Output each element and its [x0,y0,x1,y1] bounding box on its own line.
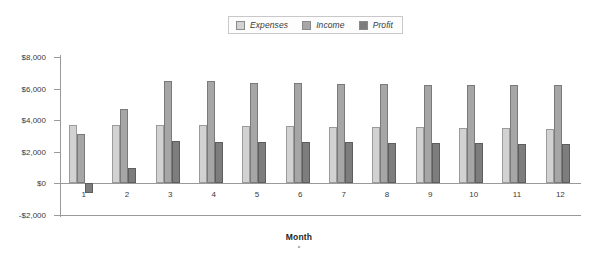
bar-expenses [329,127,337,184]
bar-profit [302,142,310,183]
y-axis-tick-label: $4,000 [22,116,46,125]
y-axis-tick-label: $8,000 [22,53,46,62]
x-axis-line [60,215,581,216]
bar-expenses [459,128,467,183]
legend-swatch-income-icon [302,21,311,30]
bar-expenses [199,125,207,183]
x-axis-tick-label: 11 [497,190,537,199]
legend-label-profit: Profit [373,20,393,30]
bar-profit [172,141,180,184]
bar-expenses [372,127,380,184]
legend-label-expenses: Expenses [250,20,288,30]
bar-expenses [546,129,554,184]
bar-income [207,81,215,183]
x-axis-tick-label: 1 [64,190,104,199]
bar-expenses [502,128,510,183]
legend-item-income: Income [302,20,344,30]
bar-income [424,85,432,184]
bar-profit [345,142,353,183]
bar-income [250,83,258,183]
bar-income [337,84,345,184]
bar-profit [388,143,396,183]
bar-profit [215,142,223,184]
y-axis-tick-label: $6,000 [22,84,46,93]
bar-income [77,134,85,183]
x-axis-tick-label: 12 [540,190,580,199]
x-axis-tick-label: 6 [280,190,320,199]
x-axis-title-marker: • [0,243,598,250]
x-axis-title: Month [0,232,598,242]
bar-profit [518,144,526,184]
bar-income [120,109,128,183]
bar-income [510,85,518,183]
bar-profit [258,142,266,183]
legend-item-profit: Profit [359,20,393,30]
bar-income [164,81,172,183]
x-axis-tick-label: 10 [454,190,494,199]
x-axis-tick-label: 9 [410,190,450,199]
bar-income [294,83,302,183]
legend-swatch-expenses-icon [236,21,245,30]
bar-expenses [416,127,424,183]
y-axis-tick [54,215,60,216]
x-axis-tick-label: 5 [237,190,277,199]
legend-swatch-profit-icon [359,21,368,30]
y-axis-tick-label: -$2,000 [19,211,46,220]
bar-expenses [69,125,77,183]
y-axis-tick-label: $2,000 [22,147,46,156]
bar-income [380,84,388,184]
bar-expenses [156,125,164,183]
bar-profit [432,143,440,183]
legend-item-expenses: Expenses [236,20,288,30]
bar-income [467,85,475,184]
bar-expenses [242,126,250,184]
x-axis-tick-label: 7 [324,190,364,199]
chart-legend: Expenses Income Profit [228,16,403,34]
x-axis-tick-label: 4 [194,190,234,199]
bar-expenses [286,126,294,184]
y-axis-tick-label: $0 [37,179,46,188]
bar-profit [562,144,570,184]
x-axis-tick-label: 2 [107,190,147,199]
bar-profit [128,168,136,184]
x-axis-tick-label: 3 [150,190,190,199]
bar-chart: Expenses Income Profit -$2,000$0$2,000$4… [0,0,598,274]
bar-income [554,85,562,183]
bar-profit [475,143,483,183]
bar-expenses [112,125,120,183]
legend-label-income: Income [316,20,344,30]
x-axis-tick-label: 8 [367,190,407,199]
